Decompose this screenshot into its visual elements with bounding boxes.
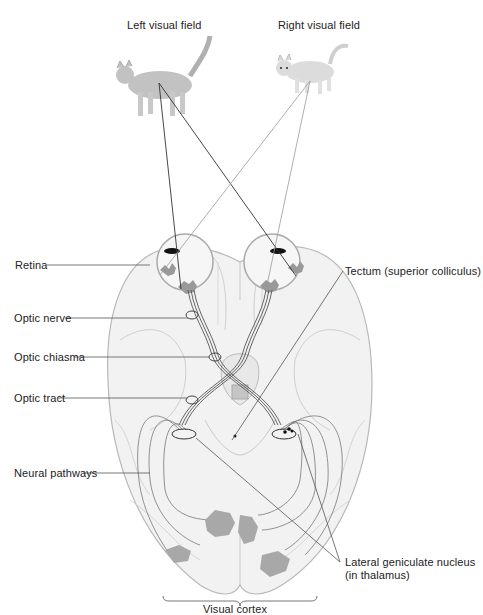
label-optic-tract: Optic tract <box>14 392 65 404</box>
label-left-visual-field: Left visual field <box>127 19 201 31</box>
label-lgn-line2: (in thalamus) <box>345 569 410 581</box>
label-tectum: Tectum (superior colliculus) <box>345 265 481 277</box>
visual-pathway-diagram: Left visual field Right visual field Ret… <box>0 0 483 615</box>
label-optic-chiasma: Optic chiasma <box>14 351 85 363</box>
left-cat <box>116 36 210 116</box>
label-optic-nerve: Optic nerve <box>14 312 71 324</box>
label-retina: Retina <box>15 259 47 271</box>
brain-outline <box>108 247 372 594</box>
diagram-illustration <box>0 0 483 615</box>
label-lgn-line1: Lateral geniculate nucleus <box>345 556 475 568</box>
right-cat <box>276 46 348 94</box>
label-visual-cortex: Visual cortex <box>203 603 267 615</box>
label-right-visual-field: Right visual field <box>278 19 360 31</box>
label-neural-pathways: Neural pathways <box>14 467 97 479</box>
